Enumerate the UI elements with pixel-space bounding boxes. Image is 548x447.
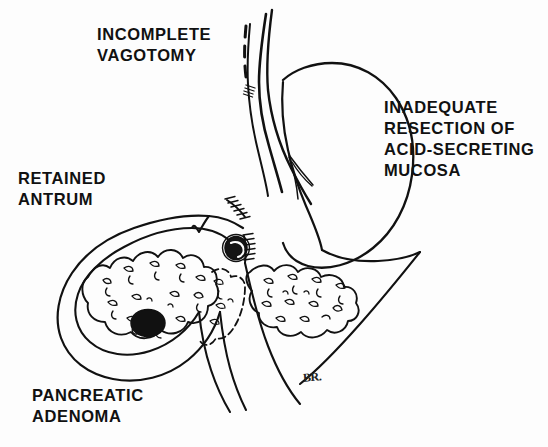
figure-background [0, 0, 548, 447]
pancreatic-adenoma-nodule [131, 310, 165, 337]
label-incomplete-vagotomy: INCOMPLETE VAGOTOMY [97, 24, 211, 66]
label-retained-antrum: RETAINED ANTRUM [18, 168, 106, 210]
anatomy-drawing [0, 0, 548, 447]
label-pancreatic-adenoma: PANCREATIC ADENOMA [32, 385, 144, 427]
label-inadequate-resection: INADEQUATE RESECTION OF ACID-SECRETING M… [384, 97, 535, 181]
artist-signature: BR. [302, 369, 321, 385]
medical-illustration-figure: INCOMPLETE VAGOTOMY INADEQUATE RESECTION… [0, 0, 548, 447]
